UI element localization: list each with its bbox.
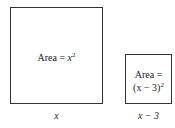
small-square-area-label: Area =(x − 3)2 (125, 69, 172, 93)
large-square-side-label: x (10, 110, 103, 121)
small-square-side-label: x − 3 (125, 110, 172, 121)
large-square-area-label: Area = x2 (10, 50, 103, 63)
